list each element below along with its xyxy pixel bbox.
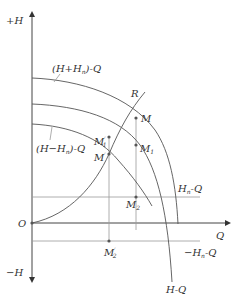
point-M-prime	[107, 152, 110, 155]
point-M1-prime	[107, 135, 110, 138]
origin-label: O	[18, 218, 26, 229]
pump-characteristic-diagram: +H −H Q O (H+Hn)-Q (H−Hn)-Q H-Q R Hn-Q −…	[0, 0, 238, 298]
curve-h	[32, 104, 172, 282]
label-h-minus-hn: (H−Hn)-Q	[36, 143, 85, 155]
point-M1	[134, 143, 137, 146]
curve-h-minus-hn	[32, 124, 152, 206]
y-pos-label: +H	[6, 15, 23, 26]
point-origin	[30, 221, 33, 224]
point-M2-prime	[107, 239, 110, 242]
label-M1: M1	[139, 143, 154, 155]
point-M	[134, 116, 137, 119]
x-axis-label: Q	[216, 230, 224, 241]
label-h-q: H-Q	[165, 284, 186, 295]
label-M2: M2	[125, 199, 140, 211]
label-M1-prime: M′1	[93, 135, 106, 148]
label-hn-q: Hn-Q	[177, 183, 202, 195]
label-neg-hn-q: −Hn-Q	[184, 247, 217, 259]
label-h-plus-hn: (H+Hn)-Q	[52, 63, 101, 75]
label-M-prime: M′	[93, 151, 106, 163]
label-M2-prime: M′2	[103, 246, 117, 259]
label-r: R	[130, 88, 139, 99]
label-M: M	[140, 113, 152, 124]
y-neg-label: −H	[6, 267, 23, 278]
